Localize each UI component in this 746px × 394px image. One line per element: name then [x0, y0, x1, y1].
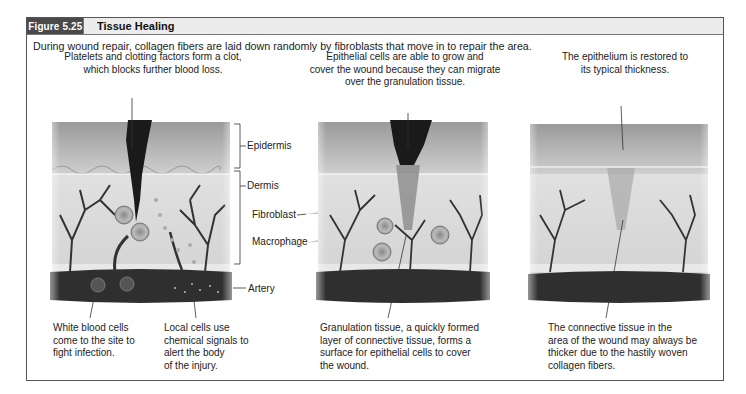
panel-granulation: [306, 113, 500, 318]
caption-local-cells: Local cells use chemical signals to aler…: [164, 322, 264, 372]
label-artery: Artery: [248, 283, 275, 294]
caption-line: alert the body: [164, 347, 264, 360]
caption-line: surface for epithelial cells to cover: [320, 347, 500, 360]
caption-line: of the injury.: [164, 360, 264, 373]
caption-line: the wound.: [320, 360, 500, 373]
label-macrophage: Macrophage: [252, 236, 308, 247]
panel-clot: [40, 98, 242, 318]
label-epidermis: Epidermis: [247, 140, 291, 151]
panel-restored: [518, 106, 720, 318]
caption-line: layer of connective tissue, forms a: [320, 335, 500, 348]
caption-line: Local cells use: [164, 322, 264, 335]
caption-line: come to the site to: [53, 335, 153, 348]
caption-white-blood-cells: White blood cells come to the site to fi…: [53, 322, 153, 360]
caption-line: thicker due to the hastily woven: [548, 347, 718, 360]
caption-connective-tissue: The connective tissue in the area of the…: [548, 322, 718, 372]
caption-line: collagen fibers.: [548, 360, 718, 373]
caption-line: fight infection.: [53, 347, 153, 360]
label-dermis: Dermis: [247, 180, 279, 191]
caption-line: White blood cells: [53, 322, 153, 335]
caption-line: area of the wound may always be: [548, 335, 718, 348]
caption-line: Granulation tissue, a quickly formed: [320, 322, 500, 335]
caption-granulation-tissue: Granulation tissue, a quickly formed lay…: [320, 322, 500, 372]
caption-line: The connective tissue in the: [548, 322, 718, 335]
label-fibroblast: Fibroblast: [252, 209, 296, 220]
caption-line: chemical signals to: [164, 335, 264, 348]
